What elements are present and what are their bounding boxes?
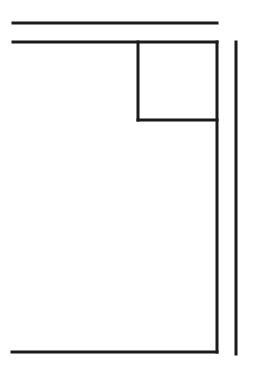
line-diagram (0, 0, 254, 380)
